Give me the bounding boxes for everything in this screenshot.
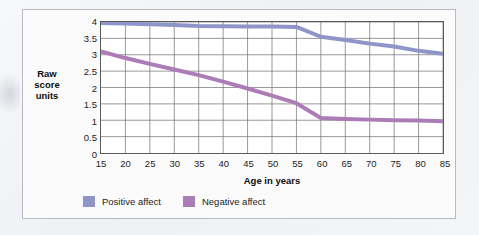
x-tick-label: 45	[235, 158, 261, 169]
y-tick-label: 2.5	[63, 65, 97, 76]
legend-label: Negative affect	[202, 196, 265, 207]
y-tick-label: 4	[63, 16, 97, 27]
x-tick-label: 15	[88, 158, 114, 169]
page-background: Raw score units 00.511.522.533.54 152025…	[0, 0, 479, 235]
y-tick-label: 1.5	[63, 99, 97, 110]
series-line-1	[101, 23, 443, 54]
chart-legend: Positive affectNegative affect	[83, 196, 265, 207]
x-tick-label: 55	[285, 158, 311, 169]
x-tick-label: 35	[186, 158, 212, 169]
legend-item-1[interactable]: Positive affect	[83, 196, 161, 207]
x-tick-label: 75	[383, 158, 409, 169]
x-tick-label: 60	[309, 158, 335, 169]
y-axis-title-line-1: Raw	[29, 68, 65, 79]
y-tick-label: 3.5	[63, 32, 97, 43]
legend-swatch-icon	[183, 196, 195, 207]
x-axis-tick-labels: 152025303540455055606570758085	[101, 158, 445, 172]
y-tick-label: 2	[63, 82, 97, 93]
y-axis-title: Raw score units	[29, 68, 65, 101]
legend-label: Positive affect	[102, 196, 161, 207]
y-axis-tick-labels: 00.511.522.533.54	[61, 21, 97, 154]
x-tick-label: 85	[432, 158, 458, 169]
plot-area	[100, 21, 444, 154]
x-tick-label: 50	[260, 158, 286, 169]
legend-swatch-icon	[83, 196, 95, 207]
scan-artifact	[0, 74, 20, 114]
series-lines	[101, 22, 443, 153]
legend-item-2[interactable]: Negative affect	[183, 196, 265, 207]
x-tick-label: 30	[162, 158, 188, 169]
x-tick-label: 20	[113, 158, 139, 169]
series-line-2	[101, 51, 443, 121]
x-tick-label: 80	[407, 158, 433, 169]
figure-frame: Raw score units 00.511.522.533.54 152025…	[22, 9, 456, 219]
y-tick-label: 1	[63, 115, 97, 126]
y-axis-title-line-3: units	[29, 90, 65, 101]
x-tick-label: 70	[358, 158, 384, 169]
x-tick-label: 40	[211, 158, 237, 169]
y-tick-label: 3	[63, 49, 97, 60]
x-axis-title: Age in years	[100, 175, 444, 186]
x-tick-label: 65	[334, 158, 360, 169]
x-tick-label: 25	[137, 158, 163, 169]
y-tick-label: 0.5	[63, 132, 97, 143]
y-axis-title-line-2: score	[29, 79, 65, 90]
